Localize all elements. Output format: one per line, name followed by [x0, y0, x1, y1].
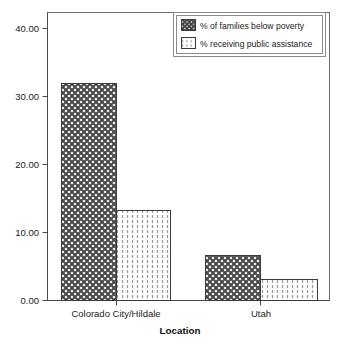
- x-category-label-1: Colorado City/Hildale: [71, 308, 160, 319]
- legend-label-assistance: % receiving public assistance: [200, 39, 312, 49]
- x-axis-title: Location: [160, 325, 201, 336]
- legend-entry-assistance: % receiving public assistance: [182, 38, 313, 49]
- y-tick-label-0: 0.00: [21, 295, 40, 306]
- y-tick-label-40: 40.00: [15, 23, 39, 34]
- bar-poverty-utah: [206, 256, 261, 301]
- y-tick-label-30: 30.00: [15, 91, 39, 102]
- bar-poverty-colorado-city-hildale: [62, 84, 117, 301]
- legend-entry-poverty: % of families below poverty: [182, 20, 305, 31]
- x-category-label-2: Utah: [251, 308, 271, 319]
- chart-canvas: 0.00 10.00 20.00 30.00 40.00 Colorado Ci…: [0, 0, 343, 346]
- y-tick-label-10: 10.00: [15, 227, 39, 238]
- legend-swatch-assistance: [182, 38, 196, 49]
- chart-legend: % of families below poverty % receiving …: [174, 13, 326, 57]
- bar-chart: 0.00 10.00 20.00 30.00 40.00 Colorado Ci…: [0, 0, 343, 346]
- legend-swatch-poverty: [182, 20, 196, 31]
- y-tick-label-20: 20.00: [15, 159, 39, 170]
- legend-outer-border: [174, 13, 326, 57]
- legend-label-poverty: % of families below poverty: [200, 21, 305, 31]
- bar-assistance-colorado-city-hildale: [117, 211, 171, 301]
- bar-assistance-utah: [261, 280, 318, 301]
